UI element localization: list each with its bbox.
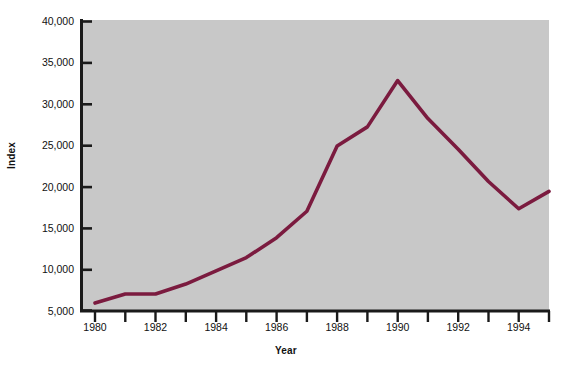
- x-axis-tick-labels: 1980 1982 1984 1986 1988 1990 1992 1994: [0, 0, 570, 377]
- x-tick-label: 1990: [368, 322, 428, 333]
- x-tick-label: 1992: [428, 322, 488, 333]
- x-tick-label: 1988: [307, 322, 367, 333]
- x-tick-label: 1994: [489, 322, 549, 333]
- x-tick-label: 1982: [126, 322, 186, 333]
- y-axis-title: Index: [6, 126, 17, 186]
- x-tick-label: 1980: [65, 322, 125, 333]
- x-tick-label: 1986: [247, 322, 307, 333]
- x-axis-title: Year: [275, 345, 297, 356]
- chart-figure: 40,000 35,000 30,000 25,000 20,000 15,00…: [0, 0, 570, 377]
- x-tick-label: 1984: [186, 322, 246, 333]
